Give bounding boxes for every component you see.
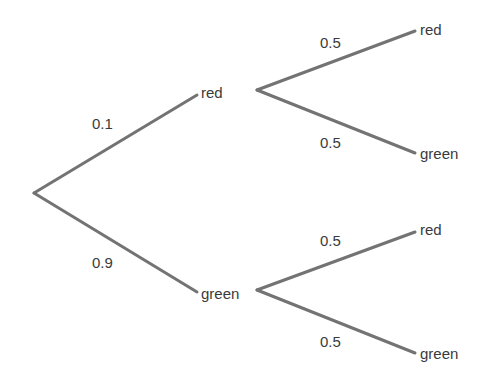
- probability-tree-diagram: red green 0.1 0.9 red green 0.5 0.5 red …: [0, 0, 497, 380]
- node-label-red: red: [201, 84, 223, 101]
- leaf-label-green-green: green: [420, 345, 458, 362]
- prob-label-red-red: 0.5: [320, 34, 341, 51]
- edge-root-to-red: [34, 95, 197, 193]
- tree-svg: red green 0.1 0.9 red green 0.5 0.5 red …: [0, 0, 497, 380]
- prob-label-red-green: 0.5: [320, 134, 341, 151]
- node-label-green: green: [201, 285, 239, 302]
- leaf-label-red-green: green: [420, 145, 458, 162]
- prob-label-red: 0.1: [92, 115, 113, 132]
- prob-label-green: 0.9: [92, 254, 113, 271]
- leaf-label-green-red: red: [420, 221, 442, 238]
- edge-root-to-green: [34, 193, 197, 292]
- prob-label-green-red: 0.5: [320, 232, 341, 249]
- prob-label-green-green: 0.5: [320, 333, 341, 350]
- leaf-label-red-red: red: [420, 21, 442, 38]
